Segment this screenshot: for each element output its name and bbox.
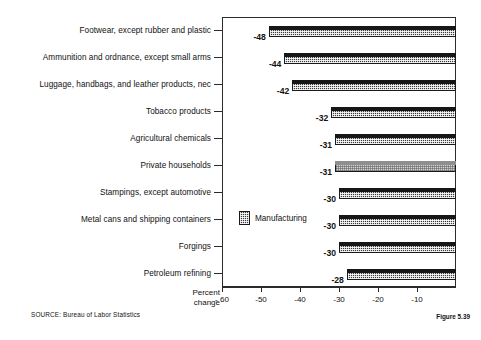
bar-top-edge [284, 53, 456, 57]
bar-value-label: -44 [269, 59, 281, 69]
bar-top-edge [347, 269, 456, 273]
bar-fill [292, 83, 456, 91]
bar-top-edge [335, 134, 456, 138]
bar [347, 269, 456, 280]
bar-value-label: -28 [331, 275, 343, 285]
bar-value-label: -30 [324, 248, 336, 258]
bar-top-edge [335, 161, 456, 165]
category-label: Stampings, except automotive [100, 188, 213, 197]
bar-fill [339, 245, 456, 253]
bar-value-label: -31 [320, 140, 332, 150]
figure-container: Footwear, except rubber and plasticAmmun… [0, 0, 481, 340]
x-axis-title: Percent change [178, 288, 220, 307]
bar-top-edge [331, 107, 456, 111]
bar [331, 107, 456, 118]
category-tick [214, 192, 222, 193]
category-label-row: Stampings, except automotive [100, 186, 222, 200]
bar [339, 242, 456, 253]
category-label: Private households [140, 161, 213, 170]
category-label: Agricultural chemicals [130, 134, 213, 143]
x-axis-tick [222, 287, 223, 292]
legend-swatch-manufacturing [239, 211, 250, 225]
x-axis-tick [339, 287, 340, 292]
bar-value-label: -32 [316, 113, 328, 123]
bar-value-label: -42 [277, 86, 289, 96]
source-note: SOURCE: Bureau of Labor Statistics [31, 311, 140, 318]
category-label-row: Metal cans and shipping containers [81, 213, 222, 227]
x-axis-tick-label: -40 [294, 295, 306, 304]
category-label-row: Agricultural chemicals [130, 132, 222, 146]
category-tick [214, 246, 222, 247]
category-tick [214, 111, 222, 112]
x-axis-tick-label: -20 [372, 295, 384, 304]
bar [335, 161, 456, 172]
figure-number: Figure 5.39 [436, 313, 470, 320]
category-label-row: Tobacco products [146, 105, 222, 119]
category-label: Luggage, handbags, and leather products,… [39, 80, 213, 89]
category-label: Petroleum refining [144, 269, 213, 278]
bar-fill [269, 29, 456, 37]
bar-fill [335, 164, 456, 172]
category-label: Metal cans and shipping containers [81, 215, 213, 224]
bar-value-label: -30 [324, 194, 336, 204]
category-label: Forgings [179, 242, 213, 251]
bar-value-label: -31 [320, 167, 332, 177]
category-label: Ammunition and ordnance, except small ar… [43, 53, 213, 62]
category-tick [214, 219, 222, 220]
bars-layer: -48-44-42-32-31-31-30-30-30-28 [222, 17, 456, 287]
x-axis-tick [417, 287, 418, 292]
x-axis-tick [261, 287, 262, 292]
category-label-row: Luggage, handbags, and leather products,… [39, 78, 222, 92]
category-tick [214, 138, 222, 139]
bar-fill [331, 110, 456, 118]
category-axis: Footwear, except rubber and plasticAmmun… [0, 17, 222, 287]
bar [292, 80, 456, 91]
bar-fill [347, 272, 456, 280]
bar [339, 188, 456, 199]
bar [284, 53, 456, 64]
category-label: Tobacco products [146, 107, 213, 116]
bar [269, 26, 456, 37]
category-label-row: Petroleum refining [144, 267, 222, 281]
x-axis-title-line2: change [178, 298, 220, 308]
bar-top-edge [339, 242, 456, 246]
bar-fill [284, 56, 456, 64]
category-tick [214, 273, 222, 274]
bar-top-edge [269, 26, 456, 30]
bar-fill [335, 137, 456, 145]
category-label: Footwear, except rubber and plastic [80, 26, 213, 35]
x-axis-tick-label: -30 [333, 295, 345, 304]
bar-value-label: -30 [324, 221, 336, 231]
bar [335, 134, 456, 145]
x-axis-tick-label: -50 [255, 295, 267, 304]
bar-fill [339, 218, 456, 226]
chart-legend: Manufacturing [239, 211, 307, 225]
x-axis-tick [300, 287, 301, 292]
category-label-row: Footwear, except rubber and plastic [80, 24, 222, 38]
category-label-row: Forgings [179, 240, 222, 254]
bar-top-edge [339, 215, 456, 219]
bar-top-edge [339, 188, 456, 192]
x-axis-tick-label: -10 [411, 295, 423, 304]
bar-fill [339, 191, 456, 199]
category-tick [214, 84, 222, 85]
category-tick [214, 30, 222, 31]
legend-label-manufacturing: Manufacturing [255, 214, 307, 223]
category-label-row: Ammunition and ordnance, except small ar… [43, 51, 222, 65]
category-tick [214, 165, 222, 166]
category-tick [214, 57, 222, 58]
x-axis-title-line1: Percent [178, 288, 220, 298]
bar-top-edge [292, 80, 456, 84]
category-label-row: Private households [140, 159, 222, 173]
bar-value-label: -48 [253, 32, 265, 42]
bar [339, 215, 456, 226]
x-axis-tick [378, 287, 379, 292]
